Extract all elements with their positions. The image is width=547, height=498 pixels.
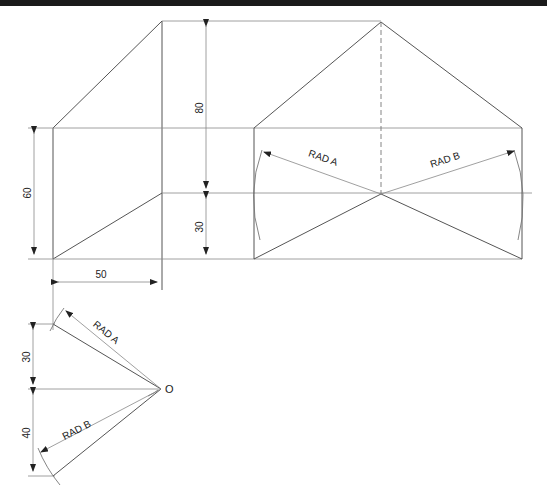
rad-b-front-label: RAD B <box>429 150 462 170</box>
dim-30-bottom-label: 30 <box>21 351 32 363</box>
dim-40-label: 40 <box>21 427 32 439</box>
technical-drawing: 60 80 30 50 RAD A RAD B <box>0 0 547 498</box>
dimension-80: 80 <box>194 26 206 188</box>
dim-60-label: 60 <box>22 187 33 199</box>
dimension-30-bottom: 30 <box>21 329 33 384</box>
rad-b-construct-label: RAD B <box>60 418 93 442</box>
dimension-60: 60 <box>22 133 34 254</box>
rad-a-front-label: RAD A <box>307 148 339 168</box>
dim-30-top-label: 30 <box>194 221 205 233</box>
rad-a-construct: RAD A <box>66 311 161 389</box>
origin-label: O <box>165 383 174 395</box>
rad-a-construct-label: RAD A <box>91 319 122 347</box>
dim-50-label: 50 <box>95 269 107 280</box>
dimension-40: 40 <box>21 394 33 471</box>
rad-b-construct: RAD B <box>41 389 161 452</box>
dimension-50: 50 <box>53 259 157 330</box>
rad-b-front: RAD B <box>381 150 514 194</box>
dim-80-label: 80 <box>194 102 205 114</box>
rad-a-front: RAD A <box>264 148 381 194</box>
dimension-30-top: 30 <box>194 198 206 254</box>
front-view <box>253 22 523 259</box>
